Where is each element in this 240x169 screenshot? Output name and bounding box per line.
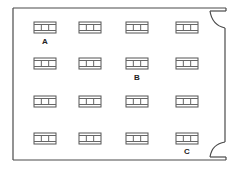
- desk: [176, 96, 198, 107]
- door-bottom-right-swing: [210, 142, 225, 157]
- labels: A B C: [42, 37, 190, 156]
- label-c: C: [184, 147, 190, 156]
- label-b: B: [134, 73, 140, 82]
- desk: [79, 133, 101, 144]
- desk: [176, 58, 198, 69]
- desk: [126, 133, 148, 144]
- desk: [79, 96, 101, 107]
- desk: [126, 58, 148, 69]
- desk: [34, 22, 56, 33]
- desk: [34, 58, 56, 69]
- desk: [176, 22, 198, 33]
- desk-grid: [34, 22, 198, 144]
- desk: [126, 22, 148, 33]
- door-top-right-swing: [210, 11, 225, 28]
- label-a: A: [42, 37, 48, 46]
- desk: [79, 22, 101, 33]
- classroom-floor-plan: A B C: [0, 0, 240, 169]
- desk: [34, 133, 56, 144]
- desk: [34, 96, 56, 107]
- desk: [126, 96, 148, 107]
- desk: [176, 133, 198, 144]
- desk: [79, 58, 101, 69]
